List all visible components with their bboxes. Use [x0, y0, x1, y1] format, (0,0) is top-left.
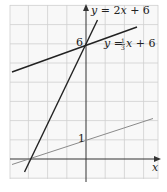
x-axis-label: x [152, 161, 159, 174]
fraction-denominator: 3 [121, 44, 125, 51]
fraction-numerator: 1 [121, 37, 125, 44]
shallow-line-label-suffix: x + 6 [126, 37, 155, 50]
grid-background [10, 5, 158, 179]
coordinate-graph: y = 2x + 6 y = 1 3 x + 6 6 1 x [0, 0, 167, 192]
steep-line-label: y = 2x + 6 [90, 4, 150, 17]
y-tick-label-1: 1 [78, 132, 85, 145]
shallow-line-label: y = [103, 37, 123, 50]
y-tick-label-6: 6 [76, 36, 83, 49]
